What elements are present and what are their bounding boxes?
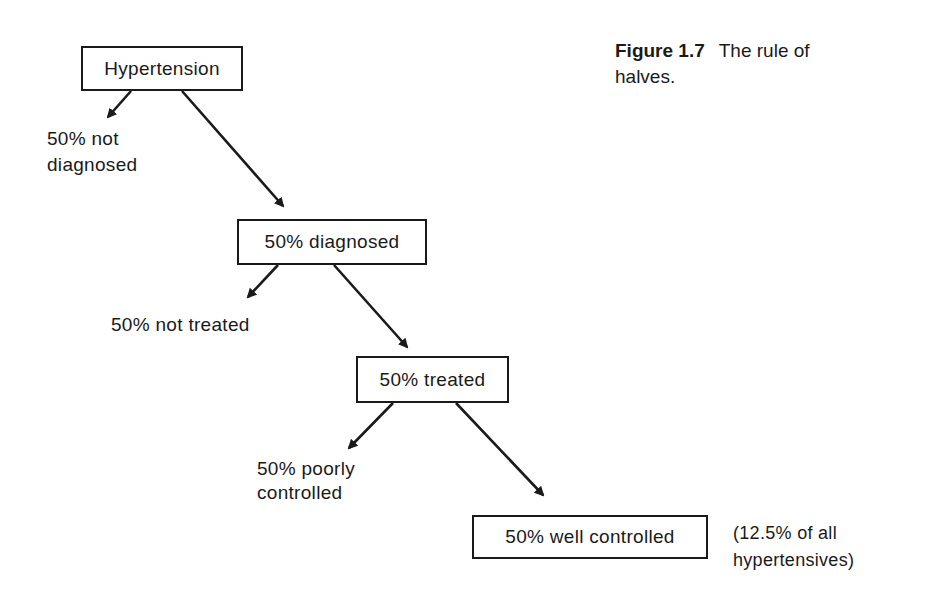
branch-poorly-controlled-line1: 50% poorly xyxy=(257,457,355,481)
arrow-diagnosed-to-not-treated xyxy=(248,265,278,297)
branch-not-diagnosed: 50% not diagnosed xyxy=(47,126,137,178)
arrow-diagnosed-to-treated xyxy=(334,265,407,347)
branch-not-diagnosed-line1: 50% not xyxy=(47,126,137,152)
arrow-hypertension-to-diagnosed xyxy=(182,91,283,206)
node-well-controlled: 50% well controlled xyxy=(472,515,708,559)
figure-title-line1: The rule of xyxy=(719,40,810,61)
note-line2: hypertensives) xyxy=(733,547,854,574)
arrow-hypertension-to-not-diagnosed xyxy=(108,91,131,117)
node-well-controlled-label: 50% well controlled xyxy=(505,526,674,548)
arrow-treated-to-well-controlled xyxy=(456,403,543,495)
node-treated: 50% treated xyxy=(356,356,509,403)
note-line1: (12.5% of all xyxy=(733,520,854,547)
well-controlled-note: (12.5% of all hypertensives) xyxy=(733,520,854,574)
figure-number: Figure 1.7 xyxy=(615,40,705,61)
branch-poorly-controlled-line2: controlled xyxy=(257,481,355,505)
node-hypertension: Hypertension xyxy=(81,46,243,91)
figure-title-line2: halves. xyxy=(615,64,810,90)
rule-of-halves-diagram: Hypertension 50% diagnosed 50% treated 5… xyxy=(0,0,940,608)
node-diagnosed: 50% diagnosed xyxy=(237,219,427,265)
branch-not-diagnosed-line2: diagnosed xyxy=(47,152,137,178)
branch-poorly-controlled: 50% poorly controlled xyxy=(257,457,355,505)
node-treated-label: 50% treated xyxy=(380,369,486,391)
figure-caption: Figure 1.7The rule of halves. xyxy=(615,38,810,90)
branch-not-treated-line1: 50% not treated xyxy=(111,312,250,338)
arrow-treated-to-poorly-controlled xyxy=(349,403,393,448)
node-diagnosed-label: 50% diagnosed xyxy=(265,231,400,253)
arrow-layer xyxy=(0,0,940,608)
branch-not-treated: 50% not treated xyxy=(111,312,250,338)
node-hypertension-label: Hypertension xyxy=(104,58,220,80)
